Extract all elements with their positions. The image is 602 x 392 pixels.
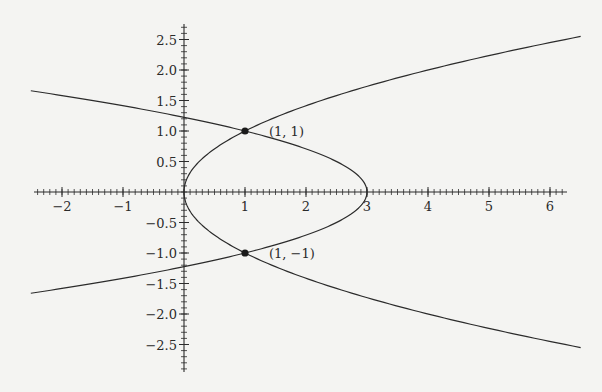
y-tick-label: 2.5 <box>156 33 177 48</box>
y-tick-label: −2.5 <box>145 338 177 353</box>
axes: −2−11234562.52.01.51.00.5−0.5−1.0−1.5−2.… <box>34 24 567 372</box>
y-tick-label: −2.0 <box>145 307 177 322</box>
intersection-point <box>241 249 248 256</box>
point-label: (1, 1) <box>269 124 304 139</box>
chart-plot-area: −2−11234562.52.01.51.00.5−0.5−1.0−1.5−2.… <box>0 0 602 392</box>
x-tick-label: −2 <box>52 199 71 214</box>
y-tick-label: 2.0 <box>156 63 177 78</box>
x-tick-label: 6 <box>546 199 554 214</box>
y-tick-label: 0.5 <box>156 155 177 170</box>
y-tick-label: −1.0 <box>145 246 177 261</box>
point-label: (1, −1) <box>269 246 315 261</box>
x-tick-label: 2 <box>302 199 310 214</box>
y-tick-label: −0.5 <box>145 216 177 231</box>
x-tick-label: 4 <box>424 199 432 214</box>
x-tick-label: 5 <box>485 199 493 214</box>
intersection-point <box>241 127 248 134</box>
y-tick-label: 1.5 <box>156 94 177 109</box>
x-tick-label: −1 <box>113 199 132 214</box>
y-tick-label: −1.5 <box>145 277 177 292</box>
x-tick-label: 1 <box>241 199 249 214</box>
y-tick-label: 1.0 <box>156 124 177 139</box>
